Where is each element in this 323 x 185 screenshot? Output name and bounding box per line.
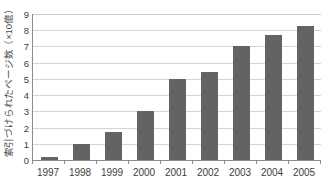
y-tick-label: 6	[24, 57, 29, 68]
x-axis-tick-labels: 199719981999200020012002200320042005	[32, 166, 320, 182]
x-tick-mark	[160, 160, 161, 164]
x-tick-label: 2005	[288, 166, 320, 182]
x-tick-label: 2003	[224, 166, 256, 182]
x-tick-mark	[224, 160, 225, 164]
y-tick-label: 7	[24, 41, 29, 52]
bar-slot	[33, 14, 65, 160]
bar-slot	[257, 14, 289, 160]
y-tick-label: 2	[24, 122, 29, 133]
y-tick-label: 9	[24, 9, 29, 20]
bar[interactable]	[105, 132, 122, 160]
x-axis-ticks	[32, 160, 321, 165]
bar-slot	[225, 14, 257, 160]
y-tick-label: 5	[24, 73, 29, 84]
x-tick-mark	[64, 160, 65, 164]
x-tick-mark	[96, 160, 97, 164]
y-tick-label: 0	[24, 155, 29, 166]
plot-area	[32, 14, 321, 161]
x-tick-label: 2001	[160, 166, 192, 182]
bars-layer	[33, 14, 321, 160]
x-tick-mark	[320, 160, 321, 164]
bar-slot	[289, 14, 321, 160]
y-axis-title-label: 索引づけられたページ数（×10億）	[1, 5, 15, 158]
bar-slot	[161, 14, 193, 160]
bar[interactable]	[297, 26, 314, 160]
bar[interactable]	[73, 144, 90, 160]
bar-slot	[97, 14, 129, 160]
x-tick-mark	[32, 160, 33, 164]
y-axis-tick-labels: 0123456789	[16, 8, 30, 162]
x-tick-label: 1997	[32, 166, 64, 182]
x-tick-label: 2000	[128, 166, 160, 182]
bar-slot	[193, 14, 225, 160]
bar[interactable]	[233, 46, 250, 160]
y-tick-label: 4	[24, 90, 29, 101]
x-tick-label: 1999	[96, 166, 128, 182]
x-tick-label: 2004	[256, 166, 288, 182]
x-tick-label: 1998	[64, 166, 96, 182]
y-tick-label: 1	[24, 138, 29, 149]
y-tick-label: 8	[24, 25, 29, 36]
bar[interactable]	[265, 35, 282, 160]
y-axis-title: 索引づけられたページ数（×10億）	[0, 0, 16, 162]
bar[interactable]	[137, 111, 154, 160]
x-tick-label: 2002	[192, 166, 224, 182]
bar[interactable]	[201, 72, 218, 160]
x-tick-mark	[192, 160, 193, 164]
bar-slot	[65, 14, 97, 160]
x-tick-mark	[288, 160, 289, 164]
bar-slot	[129, 14, 161, 160]
y-tick-label: 3	[24, 106, 29, 117]
bar-chart: 索引づけられたページ数（×10億） 0123456789 19971998199…	[0, 0, 323, 185]
x-tick-mark	[128, 160, 129, 164]
bar[interactable]	[169, 79, 186, 160]
x-tick-mark	[256, 160, 257, 164]
